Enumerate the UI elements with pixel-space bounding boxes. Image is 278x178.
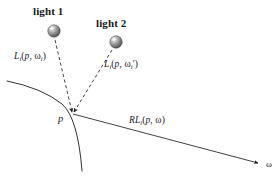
reflected-ray	[73, 114, 258, 163]
incident-2-paren-close: )	[135, 59, 138, 69]
surface-point-label: p	[58, 114, 63, 125]
incident-radiance-2-label: Li(p, ωi′)	[104, 60, 138, 70]
reflected-symbol: RL	[129, 115, 140, 125]
reflected-paren-close: )	[162, 115, 165, 125]
incident-2-arg-omega: ω	[124, 59, 130, 69]
light-2-sphere	[110, 36, 122, 48]
incident-1-omega-subscript: i	[41, 55, 43, 62]
reflected-subscript: i	[140, 119, 142, 126]
light-1-label: light 1	[33, 6, 63, 17]
incident-radiance-1-label: Li(p, ωi)	[14, 52, 46, 62]
figure-canvas: light 1 light 2 Li(p, ωi) Li(p, ωi′) RLi…	[0, 0, 278, 178]
reflected-radiance-label: RLi(p, ω)	[129, 116, 165, 126]
incident-1-paren-close: )	[43, 51, 46, 61]
incident-2-omega-subscript: i	[131, 63, 133, 70]
omega-direction-label: ω	[266, 160, 272, 169]
incident-1-arg-omega: ω	[34, 51, 40, 61]
diagram-svg	[0, 0, 278, 178]
light-2-label: light 2	[96, 18, 126, 29]
light-1-sphere	[48, 25, 60, 37]
surface-curve	[7, 81, 82, 171]
